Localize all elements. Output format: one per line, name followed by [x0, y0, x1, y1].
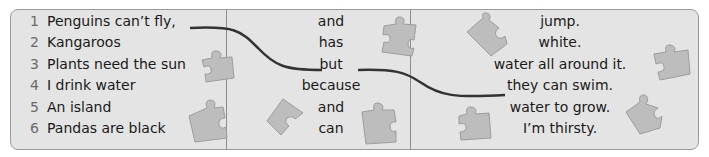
sentence-start-text: Penguins can’t fly,	[47, 13, 176, 29]
conjunction: and	[256, 11, 406, 32]
conjunctions-column: and has but because and can	[256, 11, 406, 139]
conjunction: can	[256, 118, 406, 139]
conjunction: has	[256, 32, 406, 53]
sentence-start-row: 1Penguins can’t fly,	[30, 11, 186, 32]
item-number: 6	[30, 118, 43, 139]
sentence-start-row: 5An island	[30, 97, 186, 118]
puzzle-piece-icon	[185, 98, 229, 144]
conjunction: because	[256, 75, 406, 96]
puzzle-piece-icon	[198, 48, 238, 86]
sentence-ending: jump.	[440, 11, 680, 32]
conjunction: but	[256, 54, 406, 75]
sentence-ending: white.	[440, 32, 680, 53]
sentence-starts-column: 1Penguins can’t fly, 2Kangaroos 3Plants …	[30, 11, 186, 139]
sentence-start-row: 6Pandas are black	[30, 118, 186, 139]
item-number: 5	[30, 97, 43, 118]
sentence-start-row: 3Plants need the sun	[30, 54, 186, 75]
sentence-ending: I’m thirsty.	[440, 118, 680, 139]
item-number: 1	[30, 11, 43, 32]
sentence-start-text: An island	[47, 99, 111, 115]
item-number: 2	[30, 32, 43, 53]
conjunction: and	[256, 97, 406, 118]
item-number: 3	[30, 54, 43, 75]
sentence-start-row: 4I drink water	[30, 75, 186, 96]
sentence-start-text: Pandas are black	[47, 120, 166, 136]
sentence-start-text: I drink water	[47, 77, 135, 93]
sentence-ending: water all around it.	[440, 54, 680, 75]
sentence-start-row: 2Kangaroos	[30, 32, 186, 53]
sentence-start-text: Plants need the sun	[47, 56, 186, 72]
sentence-ending: they can swim.	[440, 75, 680, 96]
sentence-start-text: Kangaroos	[47, 34, 121, 50]
sentence-ending: water to grow.	[440, 97, 680, 118]
sentence-endings-column: jump. white. water all around it. they c…	[440, 11, 680, 139]
item-number: 4	[30, 75, 43, 96]
